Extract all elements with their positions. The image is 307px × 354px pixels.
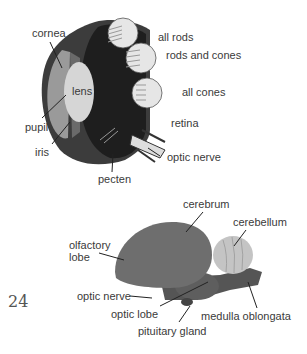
label-eye-optic-nerve: optic nerve [167, 151, 221, 163]
page-number: 24 [8, 292, 28, 311]
label-cornea: cornea [32, 27, 66, 39]
label-iris: iris [35, 146, 49, 158]
label-optic-lobe: optic lobe [111, 308, 158, 320]
label-olfactory-lobe-line2: lobe [69, 251, 90, 263]
label-rods-and-cones: rods and cones [166, 49, 241, 61]
label-olfactory-lobe-line1: olfactory [69, 239, 111, 251]
label-all-cones: all cones [182, 86, 225, 98]
label-all-rods: all rods [158, 31, 193, 43]
label-cerebellum: cerebellum [233, 216, 287, 228]
label-pecten: pecten [98, 173, 131, 185]
label-lens: lens [72, 85, 92, 97]
label-medulla-oblongata: medulla oblongata [201, 310, 291, 322]
label-cerebrum: cerebrum [183, 198, 229, 210]
label-pupil: pupil [25, 121, 48, 133]
eye-illustration [42, 18, 165, 172]
label-brain-optic-nerve: optic nerve [77, 290, 131, 302]
brain-illustration [99, 212, 262, 322]
label-pituitary-gland: pituitary gland [138, 325, 207, 337]
diagram-art [0, 0, 307, 354]
label-retina: retina [171, 117, 199, 129]
